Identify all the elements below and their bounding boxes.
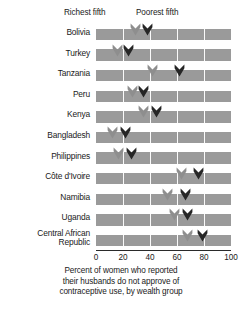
- x-axis-line: [96, 250, 231, 251]
- gridline: [150, 194, 151, 205]
- caption-line-3: contraceptive use, by wealth group: [10, 287, 232, 298]
- category-label: Namibia: [0, 193, 90, 203]
- chart-legend: Richest fifth Poorest fifth: [0, 8, 242, 22]
- gridline: [150, 214, 151, 225]
- gridline: [204, 111, 205, 122]
- chart-row: Namibia: [0, 187, 242, 208]
- x-axis-tick-label: 100: [224, 253, 238, 262]
- x-axis-tick-label: 0: [94, 253, 99, 262]
- chart-row: Bangladesh: [0, 125, 242, 146]
- x-axis-tick-label: 80: [199, 253, 208, 262]
- gridline: [150, 132, 151, 143]
- bar-track: [96, 91, 231, 102]
- gridline: [204, 70, 205, 81]
- gridline: [204, 29, 205, 40]
- category-label: Côte d'Ivoire: [0, 172, 90, 182]
- chart-row: Turkey: [0, 43, 242, 64]
- chart-row: Bolivia: [0, 22, 242, 43]
- x-axis-tick-labels: 020406080100: [0, 253, 242, 265]
- gridline: [150, 49, 151, 60]
- gridline: [177, 49, 178, 60]
- bar-track: [96, 173, 231, 184]
- marker-richest-fifth: [147, 64, 158, 77]
- gridline: [204, 214, 205, 225]
- bar-track: [96, 235, 231, 246]
- marker-poorest-fifth: [120, 126, 131, 139]
- legend-label-poorest-fifth: Poorest fifth: [136, 8, 178, 17]
- bar-track: [96, 214, 231, 225]
- marker-richest-fifth: [107, 126, 118, 139]
- marker-poorest-fifth: [151, 105, 162, 118]
- chart-row: Uganda: [0, 207, 242, 228]
- marker-poorest-fifth: [180, 188, 191, 201]
- caption-line-1: Percent of women who reported: [10, 266, 232, 277]
- gridline: [177, 132, 178, 143]
- x-axis-tick-label: 40: [145, 253, 154, 262]
- gridline: [204, 173, 205, 184]
- gridline: [123, 111, 124, 122]
- chart-row: Peru: [0, 84, 242, 105]
- gridline: [177, 29, 178, 40]
- marker-richest-fifth: [182, 229, 193, 242]
- gridline: [177, 152, 178, 163]
- marker-richest-fifth: [130, 23, 141, 36]
- gridline: [123, 173, 124, 184]
- x-axis-tick-label: 60: [172, 253, 181, 262]
- gridline: [204, 132, 205, 143]
- marker-poorest-fifth: [182, 208, 193, 221]
- gridline: [123, 214, 124, 225]
- gridline: [177, 235, 178, 246]
- marker-poorest-fifth: [174, 64, 185, 77]
- gridline: [204, 152, 205, 163]
- chart-row: Philippines: [0, 146, 242, 167]
- category-label: Turkey: [0, 49, 90, 59]
- category-label: Kenya: [0, 110, 90, 120]
- gridline: [204, 91, 205, 102]
- marker-richest-fifth: [138, 105, 149, 118]
- gridline: [123, 235, 124, 246]
- caption-line-2: their husbands do not approve of: [10, 277, 232, 288]
- gridline: [150, 152, 151, 163]
- bar-track: [96, 29, 231, 40]
- chart-row: Kenya: [0, 104, 242, 125]
- category-label: Uganda: [0, 213, 90, 223]
- marker-poorest-fifth: [193, 167, 204, 180]
- marker-richest-fifth: [127, 85, 138, 98]
- plot-area: BoliviaTurkeyTanzaniaPeruKenyaBangladesh…: [0, 22, 242, 250]
- bar-track: [96, 111, 231, 122]
- category-label: Central African Republic: [0, 229, 90, 248]
- gridline: [123, 29, 124, 40]
- marker-richest-fifth: [113, 147, 124, 160]
- category-label: Bangladesh: [0, 131, 90, 141]
- chart-row: Tanzania: [0, 63, 242, 84]
- marker-poorest-fifth: [197, 229, 208, 242]
- chart-row: Central African Republic: [0, 228, 242, 249]
- category-label: Peru: [0, 90, 90, 100]
- gridline: [123, 194, 124, 205]
- gridline: [177, 111, 178, 122]
- chart-container: Richest fifth Poorest fifth BoliviaTurke…: [0, 0, 242, 315]
- category-label: Tanzania: [0, 69, 90, 79]
- gridline: [204, 194, 205, 205]
- marker-richest-fifth: [162, 188, 173, 201]
- marker-richest-fifth: [176, 167, 187, 180]
- x-axis-tick-label: 20: [118, 253, 127, 262]
- gridline: [150, 91, 151, 102]
- chart-caption: Percent of women who reported their husb…: [10, 266, 232, 298]
- marker-poorest-fifth: [138, 85, 149, 98]
- marker-poorest-fifth: [142, 23, 153, 36]
- category-label: Philippines: [0, 152, 90, 162]
- marker-poorest-fifth: [123, 44, 134, 57]
- legend-label-richest-fifth: Richest fifth: [64, 8, 105, 17]
- marker-richest-fifth: [112, 44, 123, 57]
- gridline: [177, 91, 178, 102]
- gridline: [204, 49, 205, 60]
- gridline: [150, 235, 151, 246]
- gridline: [123, 70, 124, 81]
- gridline: [123, 91, 124, 102]
- category-label: Bolivia: [0, 28, 90, 38]
- marker-richest-fifth: [169, 208, 180, 221]
- gridline: [150, 173, 151, 184]
- chart-row: Côte d'Ivoire: [0, 166, 242, 187]
- gridline: [177, 194, 178, 205]
